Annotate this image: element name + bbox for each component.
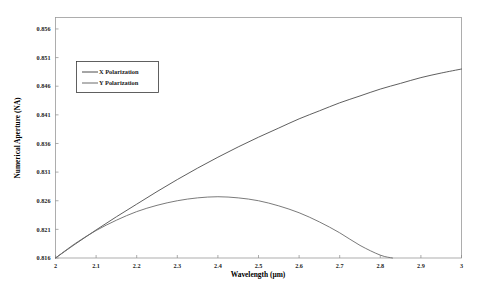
- y-tick-label: 0.836: [37, 140, 51, 147]
- y-axis-title: Numerical Aperture (NA): [13, 97, 22, 179]
- x-tick-label: 2.5: [255, 262, 263, 269]
- plot-frame: [56, 18, 462, 259]
- x-tick-label: 2.3: [173, 262, 181, 269]
- legend-label-x-polarization: X Polarization: [99, 68, 139, 75]
- x-tick-label: 2.7: [336, 262, 344, 269]
- y-tick-label: 0.821: [37, 226, 51, 233]
- x-tick-label: 2.9: [417, 262, 425, 269]
- chart-legend[interactable]: X Polarization Y Polarization: [77, 62, 159, 93]
- numerical-aperture-line-chart: 0.8160.8210.8260.8310.8360.8410.8460.851…: [0, 0, 495, 285]
- legend-frame: [77, 62, 159, 93]
- x-tick-label: 2.6: [295, 262, 303, 269]
- chart-figure: 0.8160.8210.8260.8310.8360.8410.8460.851…: [0, 0, 495, 285]
- x-tick-label: 2.2: [133, 262, 141, 269]
- y-tick-label: 0.826: [37, 197, 51, 204]
- x-tick-label: 2.4: [214, 262, 222, 269]
- y-tick-label: 0.816: [37, 254, 51, 261]
- legend-label-y-polarization: Y Polarization: [99, 79, 139, 86]
- x-tick-label: 2.1: [92, 262, 100, 269]
- x-tick-label: 3: [460, 262, 463, 269]
- x-tick-label: 2: [54, 262, 57, 269]
- y-tick-label: 0.841: [37, 111, 51, 118]
- x-tick-label: 2.8: [376, 262, 384, 269]
- y-tick-label: 0.856: [37, 25, 51, 32]
- y-tick-label: 0.831: [37, 168, 51, 175]
- y-tick-label: 0.846: [37, 82, 51, 89]
- x-axis-title: Wavelength (µm): [231, 270, 286, 279]
- y-tick-label: 0.851: [37, 54, 51, 61]
